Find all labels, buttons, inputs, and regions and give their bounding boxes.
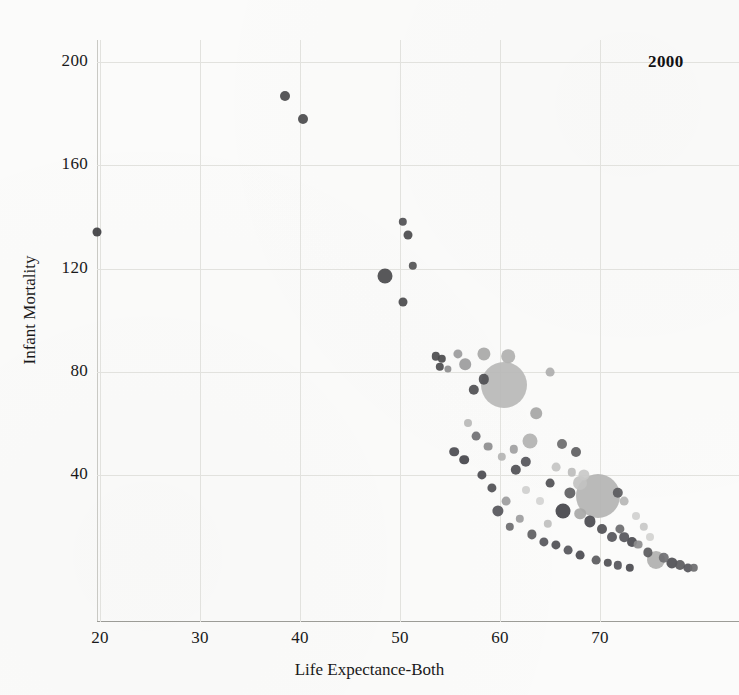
data-point-bubble [516, 515, 524, 523]
gridline-vertical [600, 40, 601, 622]
data-point-bubble [564, 545, 573, 554]
data-point-bubble [592, 556, 601, 565]
data-point-bubble [556, 504, 571, 519]
data-point-bubble [564, 487, 575, 498]
data-point-bubble [632, 512, 640, 520]
data-point-bubble [530, 407, 542, 419]
data-point-bubble [646, 533, 654, 541]
data-point-bubble [506, 522, 514, 530]
data-point-bubble [469, 385, 479, 395]
data-point-bubble [521, 457, 531, 467]
data-point-bubble [404, 230, 413, 239]
gridline-horizontal [97, 165, 739, 166]
data-point-bubble [436, 362, 444, 370]
data-point-bubble [523, 434, 538, 449]
data-point-bubble [584, 516, 595, 527]
data-point-bubble [620, 496, 629, 505]
x-axis-title: Life Expectance-Both [0, 660, 739, 680]
y-tick-label: 40 [0, 464, 88, 484]
data-point-bubble [93, 228, 102, 237]
data-point-bubble [487, 483, 496, 492]
data-point-bubble [546, 478, 555, 487]
gridline-horizontal [97, 475, 739, 476]
x-tick-label: 50 [380, 628, 420, 648]
gridline-vertical [500, 40, 501, 622]
gridline-vertical [300, 40, 301, 622]
data-point-bubble [378, 269, 393, 284]
data-point-bubble [597, 524, 607, 534]
data-point-bubble [614, 561, 622, 569]
data-point-bubble [459, 358, 471, 370]
data-point-bubble [546, 367, 555, 376]
data-point-bubble [280, 91, 290, 101]
data-point-bubble [690, 564, 698, 572]
data-point-bubble [576, 551, 585, 560]
data-point-bubble [298, 114, 308, 124]
data-point-bubble [539, 538, 548, 547]
y-tick-label: 120 [0, 258, 88, 278]
data-point-bubble [453, 349, 462, 358]
data-point-bubble [472, 432, 481, 441]
data-point-bubble [399, 218, 407, 226]
data-point-bubble [399, 298, 408, 307]
data-point-bubble [477, 347, 490, 360]
data-point-bubble [501, 349, 515, 363]
gridline-vertical [400, 40, 401, 622]
x-tick-label: 70 [580, 628, 620, 648]
data-point-bubble [604, 559, 612, 567]
data-point-bubble [626, 564, 634, 572]
data-point-bubble [552, 463, 561, 472]
data-point-bubble [536, 497, 544, 505]
data-point-bubble [511, 465, 521, 475]
y-tick-label: 200 [0, 51, 88, 71]
x-tick-label: 40 [280, 628, 320, 648]
data-point-bubble [522, 486, 530, 494]
data-point-bubble [510, 445, 518, 453]
data-point-bubble [484, 442, 493, 451]
data-point-bubble [492, 506, 503, 517]
y-tick-label: 80 [0, 361, 88, 381]
data-point-bubble [449, 447, 459, 457]
data-point-bubble [464, 419, 472, 427]
gridline-vertical [100, 40, 101, 622]
x-tick-label: 30 [180, 628, 220, 648]
data-point-bubble [502, 496, 511, 505]
data-point-bubble [634, 540, 643, 549]
data-point-bubble [640, 522, 648, 530]
gridline-horizontal [97, 372, 739, 373]
gridline-horizontal [97, 269, 739, 270]
y-axis-title: Infant Mortality [20, 160, 40, 460]
gridline-vertical [200, 40, 201, 622]
x-tick-label: 60 [480, 628, 520, 648]
data-point-bubble [477, 470, 486, 479]
data-point-bubble [498, 453, 506, 461]
y-tick-label: 160 [0, 154, 88, 174]
gridline-horizontal [97, 62, 739, 63]
data-point-bubble [544, 520, 552, 528]
year-annotation: 2000 [648, 52, 684, 72]
plot-area [97, 40, 739, 622]
data-point-bubble [459, 455, 469, 465]
data-point-bubble [551, 540, 560, 549]
data-point-bubble [481, 362, 527, 408]
data-point-bubble [574, 508, 586, 520]
data-point-bubble [607, 532, 617, 542]
data-point-bubble [619, 532, 629, 542]
data-point-bubble [571, 447, 581, 457]
bubble-chart-figure: 4080120160200203040506070 Life Expectanc… [0, 0, 739, 695]
data-point-bubble [527, 530, 536, 539]
data-point-bubble [557, 439, 567, 449]
x-tick-label: 20 [80, 628, 120, 648]
